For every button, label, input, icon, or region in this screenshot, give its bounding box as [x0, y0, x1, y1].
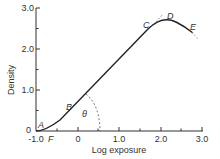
label-b: B	[66, 102, 72, 112]
y-tick-label-3: 3.0	[21, 3, 34, 13]
y-ticks	[36, 8, 40, 111]
y-tick-label-1: 1.0	[21, 85, 34, 95]
y-tick-label-2: 2.0	[21, 44, 34, 54]
label-d: D	[167, 11, 174, 21]
x-axis-title: Log exposure	[92, 145, 147, 155]
label-a: A	[37, 120, 44, 130]
x-tick-label-4: 3.0	[196, 134, 209, 144]
y-axis-title: Density	[6, 64, 16, 95]
characteristic-curve	[36, 20, 193, 131]
x-tick-label-2: 1.0	[113, 134, 126, 144]
x-ticks	[57, 127, 202, 131]
x-tick-label-1: 0	[75, 134, 80, 144]
label-theta: θ	[82, 109, 87, 119]
characteristic-curve-chart: 3.0 2.0 1.0 0 -1.0 0 1.0 2.0 3.0 Log exp…	[0, 0, 220, 159]
x-tick-label-3: 2.0	[155, 134, 168, 144]
label-e: E	[190, 22, 197, 32]
label-c: C	[143, 20, 150, 30]
label-f: F	[48, 134, 54, 144]
x-tick-label-0: -1.0	[28, 134, 44, 144]
theta-arc	[86, 94, 100, 131]
e-dash	[192, 32, 198, 39]
